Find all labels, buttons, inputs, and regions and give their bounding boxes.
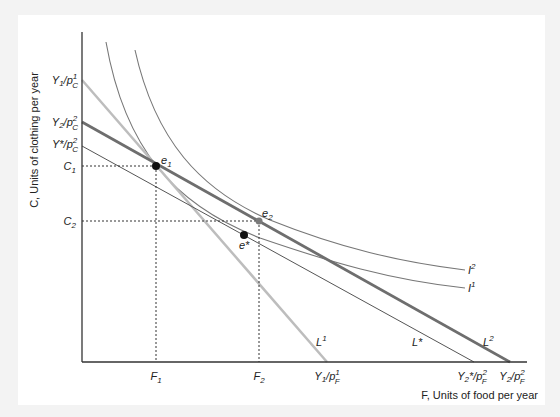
xtick-f1: F1	[150, 370, 161, 385]
xtick-f2: F2	[253, 370, 265, 385]
point-e1	[152, 162, 160, 170]
budget-line-lstar	[82, 146, 474, 362]
xtick-y1-pf1: Y1/p1F	[314, 368, 340, 386]
ytick-ystar-pc2: Y*/p2C	[52, 136, 78, 154]
x-axis-title: F, Units of food per year	[421, 389, 538, 401]
ytick-c2: C2	[64, 215, 77, 230]
label-l2: L2	[483, 334, 494, 348]
ytick-y2-pc2: Y2/p2C	[52, 114, 78, 132]
label-i1: I1	[468, 280, 476, 294]
ytick-c1: C1	[64, 160, 76, 175]
indifference-curve-i2	[135, 50, 465, 270]
xtick-y2-pf2: Y2/p2F	[499, 368, 525, 386]
y-axis-title: C, Units of clothing per year	[28, 72, 40, 208]
label-lstar: L*	[412, 336, 423, 348]
label-estar: e*	[239, 239, 250, 251]
xtick-ystar2-pf2: Y2*/p2F	[457, 368, 488, 386]
label-l1: L1	[316, 334, 327, 348]
label-e2: e2	[262, 207, 273, 222]
label-i2: I2	[468, 262, 476, 276]
budget-indifference-diagram: e1 e2 e* L1 L* L2 I2 I1 Y1/p1C Y2/p2C Y*…	[0, 0, 560, 417]
point-estar	[240, 231, 248, 239]
ytick-y1-pc1: Y1/p1C	[52, 72, 78, 90]
